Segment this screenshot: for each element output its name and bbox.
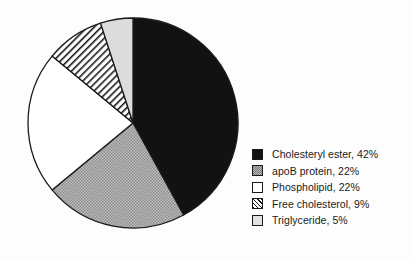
legend-swatch-apob-protein bbox=[252, 165, 263, 176]
pie-slices-group bbox=[28, 18, 238, 228]
legend-label-apob-protein: apoB protein, 22% bbox=[272, 165, 359, 177]
legend-item-cholesteryl-ester[interactable]: Cholesteryl ester, 42% bbox=[252, 146, 412, 163]
legend-label-cholesteryl-ester: Cholesteryl ester, 42% bbox=[272, 148, 378, 160]
legend-item-triglyceride[interactable]: Triglyceride, 5% bbox=[252, 212, 412, 229]
legend-swatch-triglyceride bbox=[252, 215, 263, 226]
legend-item-free-cholesterol[interactable]: Free cholesterol, 9% bbox=[252, 196, 412, 213]
legend-item-apob-protein[interactable]: apoB protein, 22% bbox=[252, 163, 412, 180]
legend-swatch-free-cholesterol bbox=[252, 198, 263, 209]
legend-label-phospholipid: Phospholipid, 22% bbox=[272, 181, 360, 193]
pie-chart-figure: Cholesteryl ester, 42% apoB protein, 22%… bbox=[0, 0, 414, 261]
chart-legend: Cholesteryl ester, 42% apoB protein, 22%… bbox=[252, 146, 412, 229]
legend-label-free-cholesterol: Free cholesterol, 9% bbox=[272, 198, 369, 210]
legend-label-triglyceride: Triglyceride, 5% bbox=[272, 214, 348, 226]
legend-item-phospholipid[interactable]: Phospholipid, 22% bbox=[252, 179, 412, 196]
legend-swatch-phospholipid bbox=[252, 182, 263, 193]
legend-swatch-cholesteryl-ester bbox=[252, 149, 263, 160]
